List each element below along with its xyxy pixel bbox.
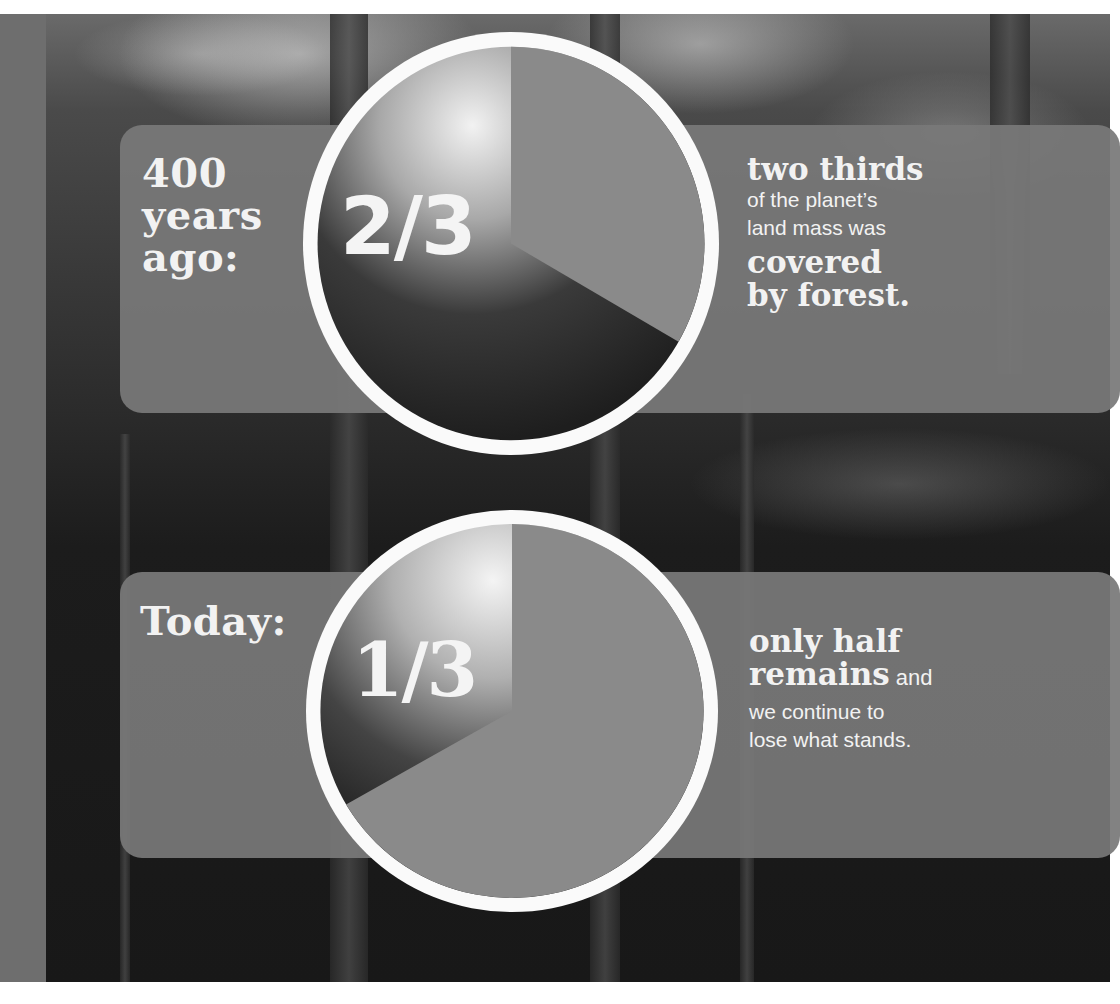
today-caption-emphasis-line: remains and [749, 658, 933, 694]
today-fraction-label: 1/3 [352, 627, 476, 713]
today-caption-line: we continue to [749, 698, 933, 726]
today-caption-line: lose what stands. [749, 726, 933, 754]
past-caption: two thirds of the planet’s land mass was… [747, 153, 924, 312]
today-caption-emphasis: remains [749, 656, 890, 692]
today-heading: Today: [140, 600, 287, 642]
past-caption-line: land mass was [747, 214, 924, 242]
today-caption: only half remains and we continue to los… [749, 625, 933, 754]
past-caption-emphasis: two thirds [747, 153, 924, 186]
past-caption-emphasis: covered [747, 246, 924, 279]
past-heading: 400 years ago: [142, 152, 263, 278]
past-heading-line-2: years [142, 194, 263, 236]
today-caption-inline: and [890, 665, 933, 690]
today-caption-emphasis: only half [749, 625, 933, 658]
left-side-band [0, 14, 46, 982]
past-fraction-label: 2/3 [340, 180, 475, 273]
past-caption-emphasis: by forest. [747, 279, 924, 312]
past-caption-line: of the planet’s [747, 186, 924, 214]
past-heading-line-3: ago: [142, 236, 263, 278]
past-heading-line-1: 400 [142, 152, 263, 194]
